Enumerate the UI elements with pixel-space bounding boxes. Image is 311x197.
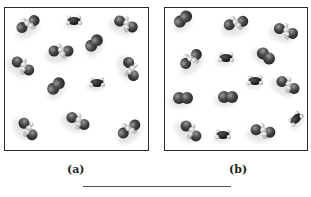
panel-b-molecules	[165, 8, 309, 152]
molecule-pair-h	[219, 12, 252, 38]
molecule-pair-h	[58, 106, 92, 137]
molecule-small-black	[64, 16, 82, 29]
molecule-small-black	[213, 130, 231, 143]
panel-a-label: (a)	[67, 163, 85, 176]
molecule-pair-h	[245, 121, 276, 145]
molecule-small-black	[285, 109, 307, 131]
molecule-pair-h	[267, 18, 300, 46]
panel-a-molecules	[5, 8, 150, 152]
answer-blank-line	[83, 186, 231, 187]
molecule-pair-h	[10, 11, 44, 42]
panel-b-box	[164, 7, 308, 151]
molecule-pair-h	[114, 51, 142, 84]
molecule-pair-h	[5, 51, 38, 83]
molecule-pair-h	[45, 43, 74, 63]
molecule-pair-h	[171, 114, 205, 148]
molecule-pair-h	[268, 70, 302, 101]
molecule-pair	[214, 91, 238, 107]
molecule-small-black	[87, 78, 105, 91]
molecule-pair	[168, 8, 197, 36]
molecule-pair-h	[9, 112, 41, 147]
molecule-pair-h	[106, 10, 140, 40]
molecule-small-black	[216, 53, 234, 66]
panel-b-label: (b)	[229, 163, 247, 176]
molecule-pair-h	[174, 45, 208, 78]
molecule-small-black	[245, 76, 263, 89]
molecule-pair-h	[112, 116, 147, 148]
molecule-pair	[42, 75, 70, 103]
molecule-pair	[169, 92, 193, 108]
panel-a-box	[4, 7, 149, 151]
molecule-pair	[249, 42, 278, 70]
molecule-pair	[80, 32, 108, 60]
